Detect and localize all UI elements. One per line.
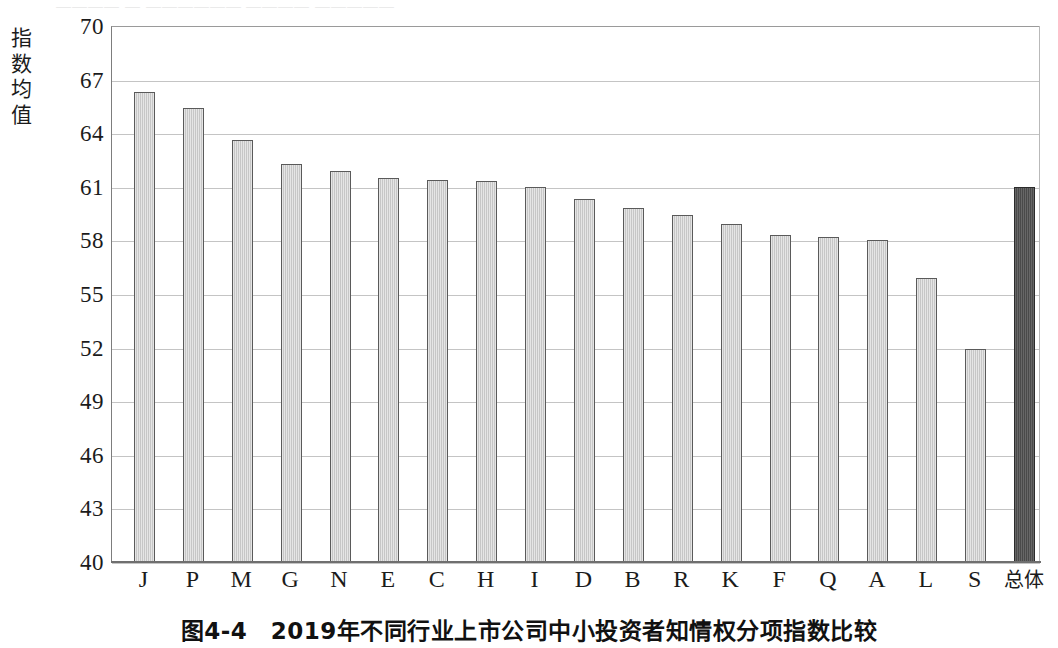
cut-off-text: ＿＿＿＿ ＿ ＿＿＿＿＿＿ ＿＿＿＿ ＿＿＿＿＿ bbox=[0, 0, 1058, 10]
plot-area bbox=[111, 26, 1040, 562]
figure-caption: 图4-4 2019年不同行业上市公司中小投资者知情权分项指数比较 bbox=[0, 612, 1058, 646]
y-tick-label: 52 bbox=[80, 336, 104, 359]
y-tick-label: 61 bbox=[80, 175, 104, 198]
x-tick-label: S bbox=[968, 567, 981, 591]
y-tick-label: 46 bbox=[80, 443, 104, 466]
x-tick-label: I bbox=[531, 567, 539, 591]
y-axis-tick-labels: 7067646158555249464340 bbox=[44, 0, 104, 648]
x-tick-label: F bbox=[772, 567, 785, 591]
bar bbox=[281, 164, 302, 562]
bar bbox=[476, 181, 497, 562]
bar bbox=[232, 140, 253, 562]
x-tick-label: N bbox=[330, 567, 347, 591]
bar bbox=[574, 199, 595, 562]
bar bbox=[427, 180, 448, 562]
y-axis-title-char: 均 bbox=[6, 77, 36, 103]
x-tick-label: R bbox=[673, 567, 689, 591]
bar bbox=[770, 235, 791, 562]
x-tick-label: A bbox=[868, 567, 885, 591]
x-axis-tick-labels: JPMGNECHIDBRKFQALS总体 bbox=[111, 563, 1041, 603]
y-tick-label: 64 bbox=[80, 122, 104, 145]
plot-right-edge bbox=[1039, 26, 1040, 562]
bar bbox=[965, 349, 986, 562]
chart-figure: ＿＿＿＿ ＿ ＿＿＿＿＿＿ ＿＿＿＿ ＿＿＿＿＿ 指数均值 7067646158… bbox=[0, 0, 1058, 648]
x-tick-label: B bbox=[624, 567, 640, 591]
x-tick-label: G bbox=[281, 567, 298, 591]
y-axis-title-char: 值 bbox=[6, 103, 36, 129]
bar bbox=[330, 171, 351, 562]
bar bbox=[134, 92, 155, 562]
x-tick-label: E bbox=[381, 567, 396, 591]
y-tick-label: 40 bbox=[80, 551, 104, 574]
x-tick-label: K bbox=[722, 567, 739, 591]
bar bbox=[867, 240, 888, 562]
cut-off-text-sliver: ＿＿＿＿ ＿ ＿＿＿＿＿＿ ＿＿＿＿ ＿＿＿＿＿ bbox=[0, 0, 1058, 13]
y-axis-title-char: 数 bbox=[6, 52, 36, 78]
y-tick-label: 55 bbox=[80, 283, 104, 306]
bar bbox=[916, 278, 937, 562]
bar bbox=[721, 224, 742, 562]
bar bbox=[378, 178, 399, 562]
x-tick-label: M bbox=[231, 567, 252, 591]
y-tick-label: 67 bbox=[80, 68, 104, 91]
y-tick-label: 70 bbox=[80, 15, 104, 38]
x-tick-label: J bbox=[139, 567, 148, 591]
bar bbox=[818, 237, 839, 562]
bar bbox=[672, 215, 693, 562]
y-tick-label: 43 bbox=[80, 497, 104, 520]
x-tick-label: L bbox=[918, 567, 933, 591]
x-tick-label: C bbox=[429, 567, 445, 591]
x-tick-label: P bbox=[186, 567, 199, 591]
y-tick-label: 58 bbox=[80, 229, 104, 252]
bar-series bbox=[112, 27, 1040, 562]
x-tick-label: D bbox=[575, 567, 592, 591]
x-tick-label: 总体 bbox=[1004, 570, 1044, 590]
x-tick-label: Q bbox=[819, 567, 836, 591]
bar bbox=[623, 208, 644, 562]
bar bbox=[183, 108, 204, 562]
y-tick-label: 49 bbox=[80, 390, 104, 413]
y-axis-title: 指数均值 bbox=[6, 26, 36, 128]
y-axis-title-char: 指 bbox=[6, 26, 36, 52]
bar bbox=[1014, 187, 1035, 562]
x-tick-label: H bbox=[477, 567, 494, 591]
bar bbox=[525, 187, 546, 562]
